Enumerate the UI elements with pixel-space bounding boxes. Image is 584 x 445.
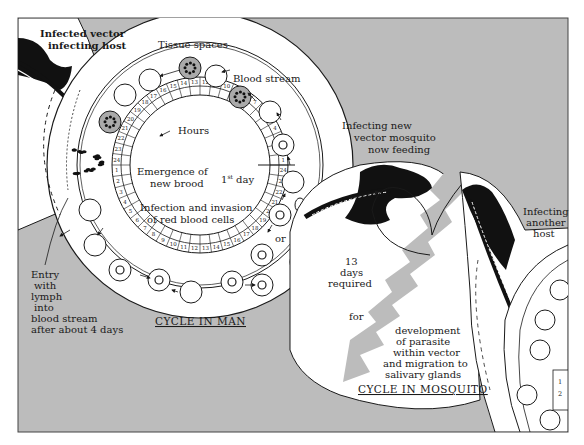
hour-label: 1 bbox=[282, 157, 286, 163]
entry-label-line: Entry bbox=[31, 269, 60, 280]
days-label-line: required bbox=[328, 278, 372, 289]
merozoite-dot bbox=[109, 116, 112, 119]
invasion-label-line2: of red blood cells bbox=[147, 214, 234, 225]
development-label: development of parasite within vector an… bbox=[383, 325, 468, 380]
hour-label: 14 bbox=[180, 80, 187, 86]
hour-label: 2 bbox=[116, 178, 120, 184]
hour-label: 24 bbox=[113, 157, 120, 163]
merozoite-dot bbox=[105, 124, 108, 127]
hour-label: 7 bbox=[143, 225, 147, 231]
merozoite-dot bbox=[234, 95, 237, 98]
merozoite-dot bbox=[235, 92, 238, 95]
entry-label-line: lymph bbox=[31, 291, 63, 302]
hour-label: 10 bbox=[170, 241, 177, 247]
hour-label: 15 bbox=[223, 241, 230, 247]
first-day-suffix: day bbox=[233, 174, 255, 185]
days-label-line: days bbox=[340, 267, 363, 278]
hour-label: 9 bbox=[161, 237, 165, 243]
hour-label: 17 bbox=[243, 231, 250, 237]
hour-label: 21 bbox=[122, 125, 129, 131]
merozoite-dot bbox=[244, 96, 247, 99]
merozoite bbox=[95, 154, 100, 157]
development-label-line: development bbox=[395, 325, 460, 336]
hour-label: 4 bbox=[123, 199, 127, 205]
merozoite bbox=[72, 149, 77, 152]
merozoite-dot bbox=[235, 99, 238, 102]
development-label-line: and migration to bbox=[383, 358, 468, 369]
entry-label-line: blood stream bbox=[31, 313, 98, 324]
merozoite bbox=[94, 157, 99, 160]
right-ring-label-2: 2 bbox=[558, 390, 562, 398]
hour-label: 11 bbox=[180, 244, 187, 250]
merozoite-dot bbox=[185, 70, 188, 73]
merozoite-dot bbox=[112, 124, 115, 127]
merozoite-dot bbox=[242, 99, 245, 102]
malaria-life-cycle-diagram: 1234567891011121314151617181920212223241… bbox=[0, 0, 584, 445]
merozoite-dot bbox=[184, 66, 187, 69]
blood-cell bbox=[229, 86, 251, 108]
hour-label: 6 bbox=[135, 217, 139, 223]
first-day-label: 1st day bbox=[221, 173, 254, 185]
development-label-line: of parasite bbox=[396, 336, 450, 347]
hour-label: 18 bbox=[141, 99, 148, 105]
merozoite-dot bbox=[242, 92, 245, 95]
days-label-line: 13 bbox=[345, 256, 358, 267]
another-host-label-line: another bbox=[526, 217, 566, 228]
another-host-label-line: Infecting bbox=[523, 206, 569, 217]
hour-label: 8 bbox=[152, 231, 156, 237]
merozoite-dot bbox=[104, 120, 107, 123]
hour-label: 13 bbox=[202, 245, 209, 251]
entry-label-line: into bbox=[34, 302, 54, 313]
blood-cell bbox=[540, 410, 560, 430]
hour-label: 12 bbox=[191, 245, 198, 251]
hour-label: 15 bbox=[170, 83, 177, 89]
hour-label: 17 bbox=[150, 93, 157, 99]
hour-label: 10 bbox=[223, 83, 230, 89]
diagram-canvas: 1234567891011121314151617181920212223241… bbox=[0, 0, 584, 445]
hour-label: 22 bbox=[117, 135, 124, 141]
hour-label: 22 bbox=[276, 189, 283, 195]
blood-cell bbox=[139, 69, 161, 91]
hour-label: 1 bbox=[115, 167, 119, 173]
development-label-line: within vector bbox=[393, 347, 460, 358]
invasion-label-line1: Infection and invasion bbox=[140, 202, 253, 213]
hour-label: 16 bbox=[160, 87, 167, 93]
merozoite-dot bbox=[188, 71, 191, 74]
blood-cell bbox=[530, 340, 550, 360]
merozoite-dot bbox=[114, 121, 117, 124]
blood-cell bbox=[114, 84, 136, 106]
blood-cell bbox=[148, 269, 170, 291]
blood-cell bbox=[180, 281, 202, 303]
blood-cell bbox=[99, 111, 121, 133]
hour-label: 23 bbox=[115, 146, 122, 152]
hour-label: 4 bbox=[273, 125, 277, 131]
new-vector-label-line: now feeding bbox=[368, 144, 431, 155]
merozoite-dot bbox=[108, 125, 111, 128]
entry-label-line: after about 4 days bbox=[31, 324, 123, 335]
new-vector-label-line: Infecting new bbox=[342, 120, 412, 131]
emergence-label-line2: new brood bbox=[150, 178, 204, 189]
cycle-in-mosquito-title: CYCLE IN MOSQUITO bbox=[358, 383, 488, 395]
blood-cell bbox=[269, 204, 291, 226]
development-label-line: salivary glands bbox=[385, 369, 461, 380]
right-ring-label-1: 1 bbox=[558, 378, 562, 386]
hour-label: 24 bbox=[280, 167, 287, 173]
blood-cell bbox=[259, 101, 281, 123]
blood-stream-label: Blood stream bbox=[233, 73, 301, 84]
or-label: or bbox=[275, 233, 286, 244]
hour-label: 13 bbox=[191, 79, 198, 85]
merozoite-dot bbox=[192, 63, 195, 66]
another-host-label-line: host bbox=[533, 228, 555, 239]
merozoite-dot bbox=[238, 100, 241, 103]
hours-label: Hours bbox=[178, 125, 209, 136]
hour-label: 19 bbox=[134, 107, 141, 113]
blood-cell bbox=[221, 271, 243, 293]
entry-label-line: with bbox=[34, 280, 57, 291]
hour-label: 19 bbox=[259, 217, 266, 223]
hour-label: 20 bbox=[127, 116, 134, 122]
merozoite-dot bbox=[192, 70, 195, 73]
merozoite-dot bbox=[194, 67, 197, 70]
blood-cell bbox=[205, 65, 227, 87]
blood-cell bbox=[251, 244, 273, 266]
infecting-host-label: infecting host bbox=[48, 40, 127, 51]
